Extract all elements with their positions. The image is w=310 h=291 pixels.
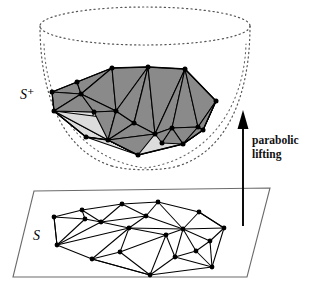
planar-vertex: [127, 226, 132, 231]
lifted-vertex: [50, 90, 55, 95]
lifted-vertex: [183, 67, 188, 72]
lifted-vertex: [92, 110, 97, 115]
planar-vertex: [210, 265, 215, 270]
planar-vertex: [144, 214, 149, 219]
lifted-vertex: [75, 80, 80, 85]
planar-vertex: [83, 217, 88, 222]
planar-vertex: [164, 233, 169, 238]
planar-vertex: [173, 255, 178, 260]
lifted-vertex: [153, 132, 158, 137]
lifted-vertex: [79, 92, 84, 97]
lifted-vertex: [114, 109, 119, 114]
lifted-vertex: [52, 109, 57, 114]
lifted-vertex: [84, 135, 89, 140]
parabolic-lifting-figure: S⁺ S parabolic lifting: [0, 0, 310, 291]
figure-canvas: S⁺ S parabolic lifting: [0, 0, 310, 291]
caption-line-1: parabolic: [252, 134, 299, 147]
ground-plane: [13, 188, 270, 277]
planar-vertex: [181, 227, 186, 232]
lifted-vertex: [110, 66, 115, 71]
planar-vertex: [55, 243, 60, 248]
lifted-vertex: [170, 126, 175, 131]
planar-vertex: [99, 220, 104, 225]
lifted-vertex: [201, 128, 206, 133]
arrow-head: [238, 110, 249, 129]
caption-line-2: lifting: [252, 148, 282, 161]
planar-vertex: [208, 239, 213, 244]
planar-vertex: [52, 215, 57, 220]
lifted-vertex: [136, 153, 141, 158]
planar-vertex: [90, 257, 95, 262]
lifted-vertex: [181, 142, 186, 147]
planar-vertex: [118, 250, 123, 255]
planar-vertex: [148, 273, 153, 278]
lifted-vertex: [160, 141, 165, 146]
planar-vertex: [80, 208, 85, 213]
planar-vertex: [156, 200, 161, 205]
label-lifted-set: S⁺: [20, 87, 34, 102]
planar-vertex: [120, 202, 125, 207]
planar-vertex: [222, 226, 227, 231]
planar-vertex: [197, 210, 202, 215]
paraboloid-top-rim: [40, 7, 250, 45]
lifted-vertex: [106, 138, 111, 143]
lifted-vertex: [214, 99, 219, 104]
planar-vertex: [194, 249, 199, 254]
lifted-vertex: [196, 125, 201, 130]
lifted-vertex: [146, 65, 151, 70]
label-planar-set: S: [33, 228, 40, 243]
lifted-vertex: [132, 121, 137, 126]
